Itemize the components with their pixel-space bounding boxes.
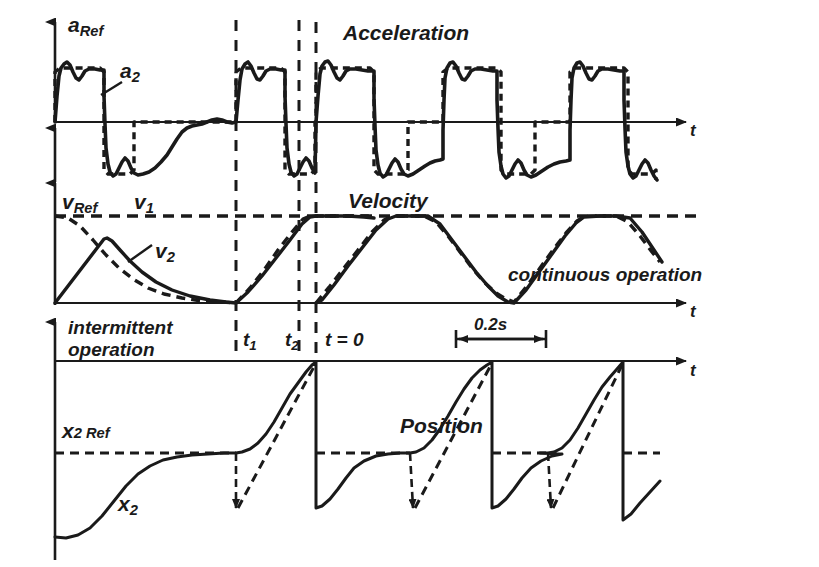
x2-ref-drop-3 (548, 453, 551, 508)
intermittent-operation-line1: intermittent (68, 318, 173, 337)
v2-trace-label: v2 (155, 240, 175, 265)
acceleration-x-axis-label: t (690, 122, 696, 139)
position-x-axis-label: t (690, 362, 696, 379)
velocity-panel-title: Velocity (348, 190, 428, 211)
x2-trace (55, 362, 660, 538)
continuous-operation-label: continuous operation (508, 265, 702, 284)
event-label-tzero: t = 0 (325, 330, 364, 349)
velocity-y-axis-label: vRef (62, 191, 97, 216)
v2-leader-line (128, 245, 152, 262)
a2-trace-label: a2 (120, 60, 140, 85)
x2-ref-ramp-1 (238, 363, 316, 508)
acceleration-y-axis-label: aRef (68, 14, 103, 39)
x2-trace-label: x2 (118, 493, 138, 518)
a-ref-trace (55, 68, 656, 180)
position-panel-title: Position (400, 415, 483, 436)
event-label-t2: t2 (285, 330, 299, 352)
x2-ref-label: x2 Ref (62, 420, 110, 441)
v2-trace (55, 216, 662, 303)
intermittent-operation-line2: operation (68, 340, 155, 359)
v1-trace-label: v1 (134, 191, 154, 216)
scale-bar-label: 0.2s (474, 316, 507, 333)
acceleration-panel (55, 22, 686, 182)
acceleration-panel-title: Acceleration (343, 22, 469, 43)
waveform-figure: aRef a2 Acceleration t vRef v1 v2 Veloci… (0, 0, 819, 567)
x2-ref-drop-2 (410, 453, 413, 508)
velocity-x-axis-label: t (690, 303, 696, 320)
x2-ref-ramp-3 (553, 363, 623, 508)
event-label-t1: t1 (243, 330, 257, 352)
